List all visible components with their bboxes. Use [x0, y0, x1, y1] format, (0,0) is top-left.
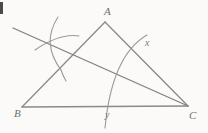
point-label-x: x — [145, 38, 149, 48]
vertex-label-c: C — [189, 110, 196, 121]
vertex-label-b: B — [14, 108, 21, 119]
compass-arcs — [35, 17, 147, 128]
point-label-y: y — [105, 110, 109, 120]
figure-canvas — [0, 0, 208, 133]
side-ab — [22, 22, 105, 107]
large-arc-through-x-and-y — [105, 35, 147, 128]
construction-arc-left — [50, 17, 61, 70]
side-ac — [105, 22, 188, 106]
side-bc — [22, 106, 188, 107]
construction-line-to-c — [13, 28, 188, 106]
geometry-figure: A B C x y — [0, 0, 208, 133]
vertex-label-a: A — [104, 6, 111, 17]
construction-arc-lower-tail — [61, 70, 66, 81]
bisector-line — [13, 28, 188, 106]
